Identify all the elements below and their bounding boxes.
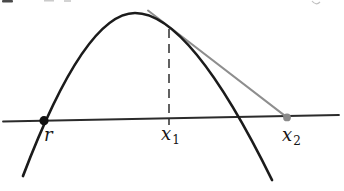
crop-artifact [44,0,54,2]
page-crop-artifacts [2,0,320,4]
x1-label: x1 [161,125,179,143]
root-label: r [44,126,53,144]
x1-label-base: x [161,123,171,144]
x1-label-subscript: 1 [172,133,180,147]
parabola-curve [23,13,272,180]
crop-artifact [64,0,71,2]
root-label-text: r [44,124,53,145]
x2-label: x2 [282,126,300,144]
x2-label-base: x [282,124,292,145]
crop-artifact [312,1,320,4]
crop-artifact [2,0,13,3]
newton-method-diagram [0,0,344,191]
x2-point-dot [283,114,291,122]
x2-label-subscript: 2 [293,134,301,148]
figure-canvas: r x1 x2 [0,0,344,191]
